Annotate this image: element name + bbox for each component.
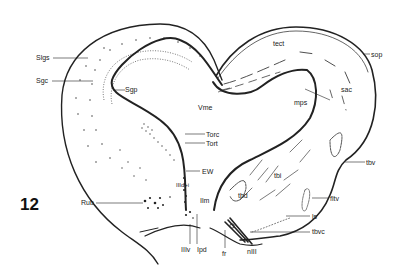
label-fltv: fltv [330,195,339,202]
label-tbi: tbi [274,172,281,179]
stipple-iiiv [185,211,194,219]
label-ilm: Ilm [200,197,209,204]
left-ventricle-outline [112,38,222,210]
label-sgc: Sgc [36,77,48,84]
label-tbv: tbv [366,159,375,166]
stipple-rub [144,196,171,209]
label-tort: Tort [206,140,218,147]
label-rub: Rub [81,199,94,206]
brain-section-diagram [0,0,404,271]
base-line-right [210,228,262,246]
stipple-sgc [75,37,200,162]
stipple-torc [119,123,174,180]
label-sgp: Sgp [125,86,137,93]
label-ipd: Ipd [197,246,207,253]
label-fr: fr [222,250,226,257]
label-iiiv: IIIv [181,246,190,253]
label-tect: tect [273,40,284,47]
label-vme: Vme [198,104,212,111]
label-sac: sac [341,86,352,93]
label-torc: Torc [206,131,219,138]
label-slgs: Slgs [36,54,50,61]
base-line-left [145,225,200,236]
left-outer-outline [62,24,222,264]
label-ew: EW [202,168,213,175]
label-tbvc: tbvc [312,228,325,235]
right-ventricle-outline [213,70,316,210]
label-sop: sop [371,51,382,58]
label-tbd: tbd [238,192,248,199]
label-mps: mps [294,99,307,106]
label-ls: ls [312,213,317,220]
figure-number: 12 [20,196,39,213]
label-iiidi: IIId+i [176,182,189,188]
label-nlll: nIII [247,248,257,255]
